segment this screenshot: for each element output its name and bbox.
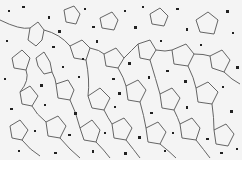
precipitate-particles: [4, 6, 239, 155]
grain-boundaries: [0, 6, 240, 158]
figure-caption: [4, 163, 52, 169]
micrograph-image: [0, 0, 242, 160]
grain-structure: [0, 0, 242, 160]
